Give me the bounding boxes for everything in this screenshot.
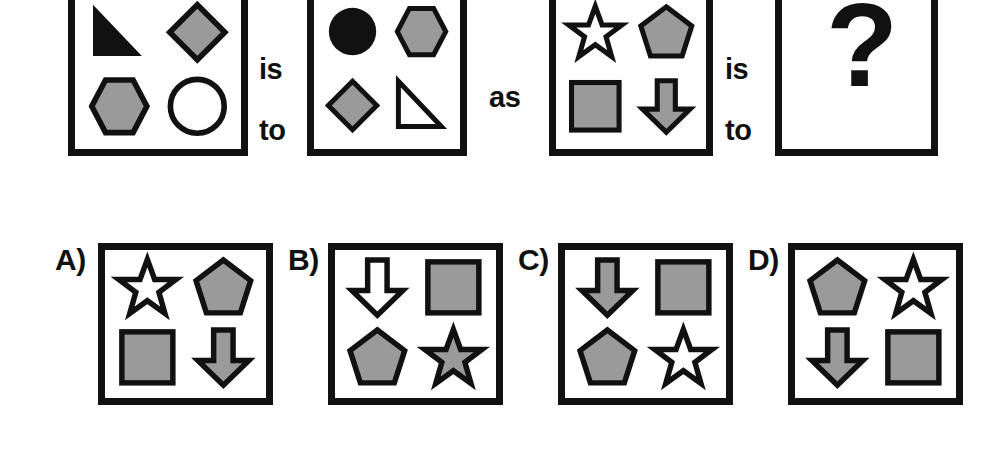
shape-diamond-bottom-left xyxy=(323,69,383,143)
shape-square-bottom-right xyxy=(880,323,946,393)
shape-pentagon-bottom-left xyxy=(345,323,411,393)
shape-diamond-top-right xyxy=(163,0,231,69)
option-d-panel[interactable] xyxy=(788,243,963,405)
prompt-panel-3 xyxy=(549,0,713,156)
connector-line-2: to xyxy=(259,115,285,145)
option-b-panel[interactable] xyxy=(328,243,503,405)
shape-hexagon-top-right xyxy=(391,0,451,69)
shape-arrow-bottom-left xyxy=(805,323,871,393)
shape-arrow-top-left xyxy=(575,253,641,323)
shape-hexagon-bottom-left xyxy=(85,69,153,143)
prompt-panel-1 xyxy=(68,0,248,156)
shape-pentagon-bottom-left xyxy=(575,323,641,393)
shape-arrow-bottom-right xyxy=(190,323,256,393)
option-a-panel[interactable] xyxy=(98,243,273,405)
connector-is-to-1: is to xyxy=(259,24,285,176)
shape-square-top-right xyxy=(420,253,486,323)
connector-line-2: to xyxy=(725,115,751,145)
shape-square-bottom-left xyxy=(115,323,181,393)
option-b-label: B) xyxy=(288,243,319,277)
shape-star-top-left xyxy=(565,0,627,69)
option-a-label: A) xyxy=(55,243,86,277)
option-c-shape-grid xyxy=(565,250,726,398)
shape-triangle-top-left xyxy=(85,0,153,69)
connector-line-1: is xyxy=(259,54,285,84)
connector-as: as xyxy=(489,52,520,143)
option-a-shape-grid xyxy=(105,250,266,398)
shape-pentagon-top-right xyxy=(636,0,698,69)
shape-square-top-right xyxy=(650,253,716,323)
connector-line-1: is xyxy=(725,54,751,84)
option-d-shape-grid xyxy=(795,250,956,398)
shape-circle-top-left xyxy=(323,0,383,69)
shape-star-top-right xyxy=(880,253,946,323)
prompt-panel-2 xyxy=(307,0,467,156)
option-d-label: D) xyxy=(748,243,779,277)
shape-star-bottom-right xyxy=(420,323,486,393)
option-c-panel[interactable] xyxy=(558,243,733,405)
panel-1-shape-grid xyxy=(75,0,241,149)
shape-star-top-left xyxy=(115,253,181,323)
shape-pentagon-top-left xyxy=(805,253,871,323)
shape-square-bottom-left xyxy=(565,69,627,143)
question-mark: ? xyxy=(826,0,898,104)
shape-star-bottom-right xyxy=(650,323,716,393)
option-b-shape-grid xyxy=(335,250,496,398)
shape-pentagon-top-right xyxy=(190,253,256,323)
prompt-panel-4-unknown: ? xyxy=(775,0,938,156)
shape-arrow-bottom-right xyxy=(636,69,698,143)
shape-triangle-bottom-right xyxy=(391,69,451,143)
connector-is-to-2: is to xyxy=(725,24,751,176)
shape-arrow-top-left xyxy=(345,253,411,323)
shape-circle-bottom-right xyxy=(163,69,231,143)
panel-3-shape-grid xyxy=(556,0,706,149)
panel-4-shape-grid: ? xyxy=(782,0,931,149)
panel-2-shape-grid xyxy=(314,0,460,149)
option-c-label: C) xyxy=(518,243,549,277)
connector-line-1: as xyxy=(489,82,520,112)
